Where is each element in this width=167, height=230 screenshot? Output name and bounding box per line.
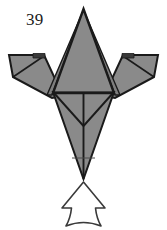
step-number-label: 39 [26, 10, 44, 29]
top-center-point [53, 9, 114, 93]
origami-figure: 39 [0, 0, 167, 230]
left-wing-notch [33, 54, 45, 59]
inflate-arrow-outline [62, 182, 105, 226]
origami-diagram-canvas [0, 0, 167, 230]
inflate-arrow [62, 182, 105, 226]
right-wing-notch [122, 54, 134, 59]
